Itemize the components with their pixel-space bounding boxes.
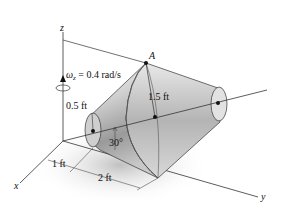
projection-line-to-A bbox=[63, 40, 146, 63]
large-radius-label: 1.5 ft bbox=[148, 91, 169, 102]
z-axis-label: z bbox=[59, 22, 64, 33]
frustum-diagram: z x y A ωz = 0.4 rad/s 0.5 ft 1.5 ft 30°… bbox=[0, 0, 285, 218]
omega-label: ωz = 0.4 rad/s bbox=[66, 69, 121, 82]
left-center-point bbox=[91, 129, 95, 133]
x-axis-label: x bbox=[13, 180, 19, 191]
point-A bbox=[144, 61, 148, 65]
mid-center-point bbox=[153, 115, 157, 119]
length-2ft-label: 2 ft bbox=[98, 172, 112, 183]
point-A-label: A bbox=[148, 50, 156, 61]
offset-1ft-label: 1 ft bbox=[52, 158, 66, 169]
y-axis-label: y bbox=[260, 191, 266, 202]
right-center-point bbox=[216, 101, 220, 105]
small-radius-label: 0.5 ft bbox=[66, 100, 87, 111]
angle-label: 30° bbox=[109, 137, 123, 148]
